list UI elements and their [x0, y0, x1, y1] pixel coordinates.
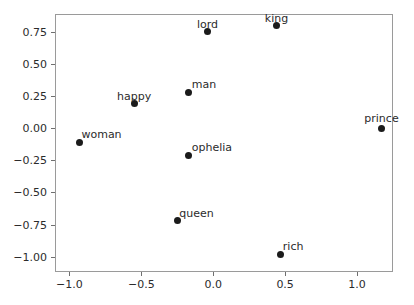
data-point-label: man: [192, 79, 216, 90]
x-tick-label: −0.5: [128, 279, 155, 290]
x-tick-mark: [357, 272, 358, 276]
y-tick-label: 0.50: [23, 59, 48, 70]
y-tick-mark: [51, 160, 55, 161]
y-tick-mark: [51, 64, 55, 65]
scatter-plot-figure: 0.750.500.250.00−0.25−0.50−0.75−1.00 −1.…: [0, 0, 414, 305]
data-point-label: woman: [81, 129, 121, 140]
y-tick-mark: [51, 225, 55, 226]
y-tick-mark: [51, 32, 55, 33]
data-point-label: prince: [364, 113, 398, 124]
y-tick-label: 0.00: [23, 123, 48, 134]
x-tick-mark: [213, 272, 214, 276]
y-tick-mark: [51, 128, 55, 129]
data-point-label: rich: [283, 241, 304, 252]
y-tick-label: 0.75: [23, 26, 48, 37]
x-tick-label: 0.5: [276, 279, 294, 290]
x-tick-label: 0.0: [204, 279, 222, 290]
y-tick-label: −0.75: [13, 219, 47, 230]
x-tick-mark: [69, 272, 70, 276]
data-point-label: happy: [117, 91, 151, 102]
x-tick-label: −1.0: [56, 279, 83, 290]
data-point-label: lord: [197, 19, 218, 30]
x-tick-mark: [141, 272, 142, 276]
y-tick-label: 0.25: [23, 91, 48, 102]
y-tick-mark: [51, 192, 55, 193]
data-point-label: ophelia: [192, 142, 232, 153]
data-point-label: queen: [179, 208, 213, 219]
x-tick-mark: [285, 272, 286, 276]
y-tick-label: −0.25: [13, 155, 47, 166]
y-tick-mark: [51, 96, 55, 97]
y-tick-mark: [51, 257, 55, 258]
x-tick-label: 1.0: [348, 279, 366, 290]
data-point-marker: [378, 125, 385, 132]
y-tick-label: −0.50: [13, 187, 47, 198]
data-point-label: king: [265, 13, 288, 24]
y-tick-label: −1.00: [13, 251, 47, 262]
